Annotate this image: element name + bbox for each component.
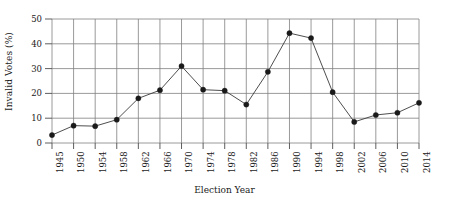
x-axis-tick-label: 1958 (120, 151, 129, 173)
x-axis-tick-label: 1994 (315, 151, 324, 173)
x-axis-tick-labels: 1945195019541958196219661970197419781982… (0, 0, 449, 203)
x-axis-tick-label: 1945 (56, 151, 65, 173)
x-axis-tick-label: 2010 (401, 151, 410, 173)
x-axis-tick-label: 1986 (271, 151, 280, 173)
x-axis-tick-label: 1950 (77, 151, 86, 173)
x-axis-tick-label: 2002 (358, 151, 367, 173)
x-axis-tick-label: 1966 (164, 151, 173, 173)
x-axis-tick-label: 1974 (207, 151, 216, 173)
x-axis-tick-label: 2014 (423, 151, 432, 173)
x-axis-tick-label: 1970 (185, 151, 194, 173)
line-chart: Invalid Votes (%) 01020304050 1945195019… (0, 0, 449, 203)
x-axis-tick-label: 2006 (379, 151, 388, 173)
x-axis-tick-label: 1962 (142, 151, 151, 173)
x-axis-tick-label: 1982 (250, 151, 259, 173)
x-axis-tick-label: 1954 (99, 151, 108, 173)
x-axis-title: Election Year (0, 185, 449, 195)
x-axis-tick-label: 1978 (228, 151, 237, 173)
x-axis-tick-label: 1998 (336, 151, 345, 173)
x-axis-tick-label: 1990 (293, 151, 302, 173)
